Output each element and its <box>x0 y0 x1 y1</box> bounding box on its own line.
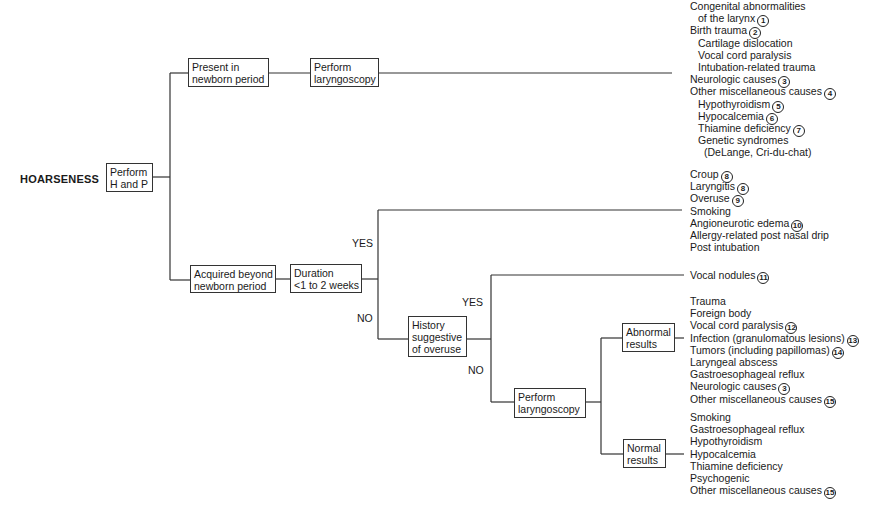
outcome-item: Post intubation <box>690 241 829 253</box>
outcome-item: of the larynx1 <box>690 12 836 24</box>
node-text: of overuse <box>412 343 463 355</box>
node-acquired-beyond-newborn: Acquired beyond newborn period <box>190 265 276 293</box>
node-perform-h-and-p: Perform H and P <box>106 163 153 192</box>
reference-number-icon: 15 <box>824 396 836 408</box>
outcome-text: Foreign body <box>690 307 751 319</box>
node-text: suggestive <box>412 331 463 343</box>
outcome-text: Cartilage dislocation <box>698 37 793 49</box>
outcome-item: Congenital abnormalities <box>690 0 836 12</box>
outcome-text: Allergy-related post nasal drip <box>690 229 829 241</box>
outcome-item: Smoking <box>690 205 829 217</box>
outcome-text: Congenital abnormalities <box>690 0 806 12</box>
outcome-text: Genetic syndromes <box>698 134 788 146</box>
outcome-item: Thiamine deficiency7 <box>690 122 836 134</box>
node-text: Abnormal <box>626 326 671 338</box>
outcome-text: Other miscellaneous causes <box>690 85 822 97</box>
edge-label-duration-yes: YES <box>352 237 373 249</box>
node-text: H and P <box>110 178 149 190</box>
outcome-list-newborn: Congenital abnormalitiesof the larynx1Bi… <box>690 0 836 158</box>
outcome-item: Smoking <box>690 411 836 423</box>
outcome-list-abnormal: TraumaForeign bodyVocal cord paralysis12… <box>690 295 859 405</box>
node-text: laryngoscopy <box>314 73 375 85</box>
outcome-item: Genetic syndromes <box>690 134 836 146</box>
outcome-text: Trauma <box>690 295 726 307</box>
outcome-item: Infection (granulomatous lesions)13 <box>690 332 859 344</box>
outcome-item: Hypothyroidism5 <box>690 98 836 110</box>
outcome-text: Thiamine deficiency <box>690 460 783 472</box>
hoarseness-flowchart: HOARSENESS Perform H and P Present in ne… <box>0 0 874 508</box>
outcome-item: Gastroesophageal reflux <box>690 423 836 435</box>
outcome-text: Vocal cord paralysis <box>690 319 783 331</box>
outcome-text: Vocal cord paralysis <box>698 49 791 61</box>
node-text: newborn period <box>194 280 272 292</box>
reference-number-icon: 14 <box>832 347 844 359</box>
node-text: Acquired beyond <box>194 268 272 280</box>
outcome-item: Hypocalcemia <box>690 448 836 460</box>
outcome-item: Gastroesophageal reflux <box>690 368 859 380</box>
outcome-text: Gastroesophageal reflux <box>690 368 804 380</box>
node-text: Duration <box>294 267 358 279</box>
outcome-text: Other miscellaneous causes <box>690 393 822 405</box>
node-history-overuse: History suggestive of overuse <box>408 316 467 357</box>
outcome-list-overuse: Vocal nodules11 <box>690 269 769 281</box>
outcome-item: Thiamine deficiency <box>690 460 836 472</box>
outcome-item: Allergy-related post nasal drip <box>690 229 829 241</box>
edge-label-duration-no: NO <box>357 312 373 324</box>
outcome-item: (DeLange, Cri-du-chat) <box>690 146 836 158</box>
outcome-text: Croup <box>690 168 719 180</box>
outcome-item: Intubation-related trauma <box>690 61 836 73</box>
outcome-item: Neurologic causes3 <box>690 380 859 392</box>
node-normal-results: Normal results <box>623 439 666 468</box>
outcome-text: Laryngitis <box>690 180 735 192</box>
node-text: History <box>412 319 463 331</box>
node-text: Normal <box>627 442 662 454</box>
node-text: results <box>626 338 671 350</box>
node-text: Perform <box>110 166 149 178</box>
outcome-text: Post intubation <box>690 241 759 253</box>
outcome-text: Psychogenic <box>690 472 750 484</box>
node-perform-laryngoscopy: Perform laryngoscopy <box>514 388 586 418</box>
outcome-text: Hypothyroidism <box>698 98 770 110</box>
node-text: newborn period <box>192 73 265 85</box>
outcome-item: Overuse9 <box>690 192 829 204</box>
outcome-text: Other miscellaneous causes <box>690 484 822 496</box>
outcome-item: Other miscellaneous causes15 <box>690 484 836 496</box>
outcome-item: Hypothyroidism <box>690 435 836 447</box>
outcome-text: Angioneurotic edema <box>690 217 789 229</box>
outcome-list-short-duration: Croup8Laryngitis8Overuse9SmokingAngioneu… <box>690 168 829 253</box>
outcome-text: Thiamine deficiency <box>698 122 791 134</box>
outcome-text: Hypocalcemia <box>690 448 756 460</box>
outcome-text: Neurologic causes <box>690 380 776 392</box>
node-text: Perform <box>518 391 582 403</box>
reference-number-icon: 9 <box>732 195 744 207</box>
outcome-text: Hypocalcemia <box>698 110 764 122</box>
node-newborn-laryngoscopy: Perform laryngoscopy <box>310 58 379 87</box>
outcome-item: Laryngitis8 <box>690 180 829 192</box>
reference-number-icon: 13 <box>847 335 859 347</box>
edge-label-history-no: NO <box>468 364 484 376</box>
outcome-text: Birth trauma <box>690 24 747 36</box>
outcome-text: Smoking <box>690 205 731 217</box>
outcome-item: Cartilage dislocation <box>690 37 836 49</box>
outcome-item: Tumors (including papillomas)14 <box>690 344 859 356</box>
reference-number-icon: 15 <box>824 487 836 499</box>
outcome-text: Gastroesophageal reflux <box>690 423 804 435</box>
node-text: laryngoscopy <box>518 403 582 415</box>
outcome-item: Other miscellaneous causes15 <box>690 393 859 405</box>
node-text: Perform <box>314 61 375 73</box>
node-duration: Duration <1 to 2 weeks <box>290 264 362 293</box>
outcome-item: Neurologic causes3 <box>690 73 836 85</box>
outcome-text: (DeLange, Cri-du-chat) <box>704 146 811 158</box>
outcome-text: Vocal nodules <box>690 269 755 281</box>
outcome-item: Other miscellaneous causes4 <box>690 85 836 97</box>
outcome-item: Vocal cord paralysis <box>690 49 836 61</box>
outcome-item: Vocal cord paralysis12 <box>690 319 859 331</box>
outcome-item: Vocal nodules11 <box>690 269 769 281</box>
node-present-in-newborn: Present in newborn period <box>188 58 269 87</box>
edge-label-history-yes: YES <box>462 296 483 308</box>
outcome-item: Angioneurotic edema10 <box>690 217 829 229</box>
node-text: results <box>627 454 662 466</box>
flowchart-title: HOARSENESS <box>20 173 99 185</box>
outcome-text: Intubation-related trauma <box>698 61 815 73</box>
outcome-text: Laryngeal abscess <box>690 356 778 368</box>
